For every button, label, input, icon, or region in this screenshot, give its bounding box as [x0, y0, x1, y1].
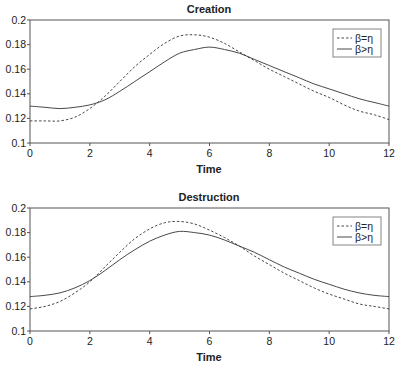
x-tick-label: 8 — [266, 335, 272, 347]
y-tick-label: 0.16 — [6, 63, 27, 75]
y-tick-label: 0.2 — [11, 14, 26, 26]
y-tick-label: 0.16 — [6, 251, 27, 263]
y-tick-label: 0.18 — [6, 226, 27, 238]
y-tick-label: 0.14 — [6, 275, 27, 287]
chart-title: Creation — [187, 3, 232, 15]
x-tick-label: 12 — [383, 147, 395, 159]
legend-label-beta-gt-eta: β>η — [355, 43, 373, 55]
y-tick-label: 0.2 — [11, 202, 26, 214]
y-tick-label: 0.12 — [6, 112, 27, 124]
chart-title: Destruction — [178, 191, 239, 203]
y-tick-label: 0.12 — [6, 300, 27, 312]
x-tick-label: 6 — [207, 335, 213, 347]
y-tick-label: 0.1 — [11, 137, 26, 149]
legend-label-beta-gt-eta: β>η — [355, 231, 373, 243]
x-tick-label: 12 — [383, 335, 395, 347]
x-axis-label: Time — [196, 163, 221, 175]
x-tick-label: 0 — [27, 335, 33, 347]
x-tick-label: 4 — [147, 335, 153, 347]
figure: Creation Time 0.10.120.140.160.180.20246… — [0, 0, 401, 376]
x-axis-label: Time — [196, 351, 221, 363]
x-tick-label: 2 — [87, 335, 93, 347]
x-tick-label: 10 — [323, 147, 335, 159]
chart-destruction: Destruction Time 0.10.120.140.160.180.20… — [6, 191, 395, 363]
x-tick-label: 10 — [323, 335, 335, 347]
legend: β=η β>η — [333, 217, 381, 245]
x-tick-label: 4 — [147, 147, 153, 159]
chart-creation: Creation Time 0.10.120.140.160.180.20246… — [6, 3, 395, 175]
legend: β=η β>η — [333, 29, 381, 57]
y-tick-label: 0.18 — [6, 38, 27, 50]
x-tick-label: 0 — [27, 147, 33, 159]
x-tick-label: 6 — [207, 147, 213, 159]
y-tick-label: 0.14 — [6, 87, 27, 99]
x-tick-label: 8 — [266, 147, 272, 159]
y-tick-label: 0.1 — [11, 325, 26, 337]
x-tick-label: 2 — [87, 147, 93, 159]
